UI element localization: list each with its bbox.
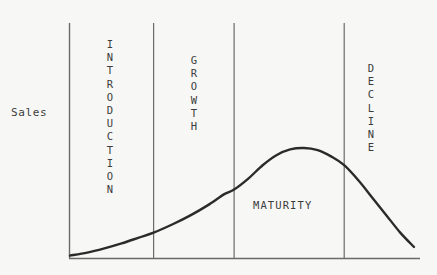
y-axis-title: Sales — [11, 106, 47, 119]
stage-letter: H — [186, 120, 202, 133]
stage-letter: R — [102, 78, 118, 91]
stage-letter: I — [102, 38, 118, 51]
stage-letter: E — [363, 141, 379, 154]
stage-letter: C — [102, 130, 118, 143]
stage-letter: N — [363, 128, 379, 141]
sales-curve — [70, 148, 414, 256]
product-life-cycle-diagram: Sales INTRODUCTION GROWTH DECLINE MATURI… — [0, 0, 437, 275]
stage-letter: W — [186, 94, 202, 107]
stage-letter: G — [186, 54, 202, 67]
stage-letter: T — [102, 144, 118, 157]
stage-letter: U — [102, 117, 118, 130]
stage-letter: D — [363, 62, 379, 75]
stage-label-maturity: MATURITY — [253, 199, 312, 211]
stage-letter: O — [102, 91, 118, 104]
stage-letter: O — [186, 80, 202, 93]
stage-letter: L — [363, 102, 379, 115]
stage-letter: D — [102, 104, 118, 117]
stage-label-growth: GROWTH — [186, 54, 202, 133]
stage-label-introduction: INTRODUCTION — [102, 38, 118, 196]
stage-label-decline: DECLINE — [363, 62, 379, 154]
stage-letter: I — [102, 157, 118, 170]
stage-letter: I — [363, 115, 379, 128]
stage-letter: T — [102, 64, 118, 77]
stage-letter: O — [102, 170, 118, 183]
stage-letter: C — [363, 88, 379, 101]
stage-letter: T — [186, 107, 202, 120]
stage-letter: N — [102, 51, 118, 64]
stage-letter: N — [102, 183, 118, 196]
stage-letter: E — [363, 75, 379, 88]
stage-letter: R — [186, 67, 202, 80]
